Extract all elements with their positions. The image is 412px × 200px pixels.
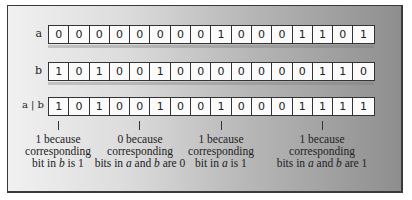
bit-cell: 0 — [252, 98, 272, 115]
bit-cell: 0 — [232, 63, 252, 80]
bit-cell: 0 — [252, 26, 272, 43]
bit-row-a-or-b: 1 0 1 0 0 1 0 0 1 0 0 0 1 1 1 1 — [48, 97, 375, 116]
row-shadow — [48, 82, 374, 85]
bit-cell: 0 — [272, 26, 292, 43]
bit-cell: 1 — [211, 26, 231, 43]
bit-cell: 0 — [150, 26, 170, 43]
row-label-b: b — [20, 64, 42, 77]
row-label-a: a — [20, 27, 42, 40]
annotation-pointer — [58, 121, 59, 130]
bit-cell: 0 — [69, 98, 89, 115]
annotation-pointer — [322, 121, 323, 130]
bit-cell: 1 — [313, 98, 333, 115]
bit-cell: 0 — [110, 26, 130, 43]
bit-cell: 0 — [293, 63, 313, 80]
bit-cell: 0 — [69, 63, 89, 80]
bit-cell: 0 — [272, 98, 292, 115]
bit-cell: 1 — [333, 98, 353, 115]
annotation-bit-0: 1 because corresponding bit in b is 1 — [14, 133, 102, 169]
bit-cell: 1 — [150, 63, 170, 80]
bit-cell: 1 — [49, 98, 69, 115]
bit-cell: 0 — [272, 63, 292, 80]
bit-cell: 0 — [353, 63, 373, 80]
bit-cell: 0 — [171, 98, 191, 115]
annotation-bit-13: 1 because corresponding bits in a and b … — [274, 133, 370, 169]
bit-cell: 0 — [191, 98, 211, 115]
annotation-bit-8: 1 because corresponding bit in a is 1 — [177, 133, 265, 169]
bit-cell: 1 — [49, 63, 69, 80]
bit-cell: 0 — [191, 63, 211, 80]
bit-cell: 1 — [313, 26, 333, 43]
annotation-pointer — [221, 121, 222, 130]
bit-cell: 0 — [191, 26, 211, 43]
bit-cell: 0 — [171, 26, 191, 43]
bit-cell: 0 — [232, 98, 252, 115]
annotation-pointer — [139, 121, 140, 130]
row-label-a-or-b: a | b — [10, 99, 44, 110]
bit-cell: 0 — [333, 26, 353, 43]
bit-cell: 0 — [49, 26, 69, 43]
bit-row-b: 1 0 1 0 0 1 0 0 0 0 0 0 0 1 1 0 — [48, 62, 375, 81]
bit-cell: 1 — [90, 98, 110, 115]
bit-cell: 1 — [313, 63, 333, 80]
bit-row-a: 0 0 0 0 0 0 0 0 1 0 0 0 1 1 0 1 — [48, 25, 375, 44]
row-shadow — [48, 45, 374, 48]
bit-cell: 0 — [90, 26, 110, 43]
annotation-bit-4: 0 because corresponding bits in a and b … — [92, 133, 188, 169]
bit-cell: 0 — [171, 63, 191, 80]
bit-cell: 0 — [110, 98, 130, 115]
bit-cell: 1 — [90, 63, 110, 80]
bit-cell: 0 — [252, 63, 272, 80]
bit-cell: 1 — [333, 63, 353, 80]
bit-cell: 0 — [130, 26, 150, 43]
bit-cell: 1 — [293, 26, 313, 43]
bit-cell: 1 — [353, 98, 373, 115]
bit-cell: 0 — [130, 98, 150, 115]
bit-cell: 0 — [69, 26, 89, 43]
bit-cell: 0 — [130, 63, 150, 80]
bit-cell: 0 — [211, 63, 231, 80]
bit-cell: 1 — [353, 26, 373, 43]
bit-cell: 1 — [150, 98, 170, 115]
bit-cell: 1 — [211, 98, 231, 115]
bit-cell: 0 — [110, 63, 130, 80]
bit-cell: 1 — [293, 98, 313, 115]
bit-cell: 0 — [232, 26, 252, 43]
